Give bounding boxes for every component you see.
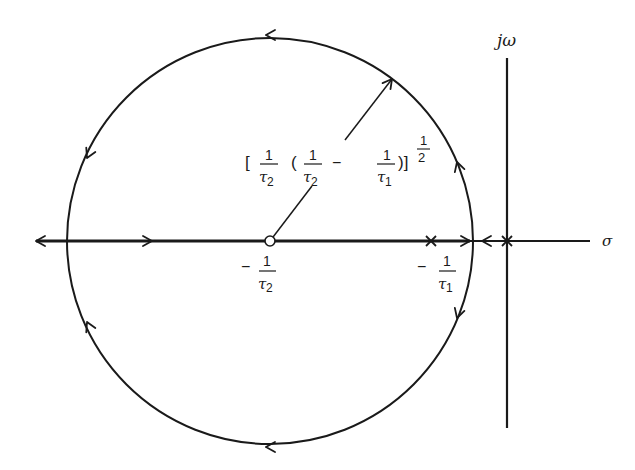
radius-line-upper <box>345 79 392 140</box>
zero-marker <box>265 236 275 246</box>
real-axis-label: σ <box>602 232 613 250</box>
radius-label-f1-num: 1 <box>265 147 273 163</box>
radius-label-f3-num: 1 <box>383 147 391 163</box>
pole-label-sub: 1 <box>446 281 453 295</box>
radius-label-f2-num: 1 <box>309 147 317 163</box>
radius-label-bracket: [ <box>245 153 250 172</box>
radius-label-paren: ( <box>291 153 297 172</box>
zero-label-num: 1 <box>263 253 271 269</box>
zero-label-sign: − <box>241 258 250 275</box>
pole-left-label: − 1 τ 1 <box>417 253 456 295</box>
radius-label-minus: − <box>332 154 341 171</box>
radius-label-exp-num: 1 <box>420 133 427 148</box>
radius-label: [ 1 τ 2 ( 1 τ 2 − 1 τ 1 )] 1 2 <box>245 133 430 189</box>
radius-label-f2-sub: 2 <box>311 175 318 189</box>
pole-label-num: 1 <box>443 253 451 269</box>
radius-label-f1-sub: 2 <box>267 175 274 189</box>
radius-label-f3-sub: 1 <box>385 175 392 189</box>
imaginary-axis-label: jω <box>493 30 516 50</box>
root-locus-diagram: jω σ − 1 τ 2 − 1 τ 1 <box>0 0 635 470</box>
radius-label-exp-den: 2 <box>418 150 425 165</box>
zero-label: − 1 τ 2 <box>241 253 276 295</box>
radius-line-lower <box>270 186 312 241</box>
radius-label-close: )] <box>398 153 408 172</box>
pole-label-sign: − <box>417 258 426 275</box>
arrow-lower-right-icon <box>452 308 464 320</box>
zero-label-sub: 2 <box>266 281 273 295</box>
